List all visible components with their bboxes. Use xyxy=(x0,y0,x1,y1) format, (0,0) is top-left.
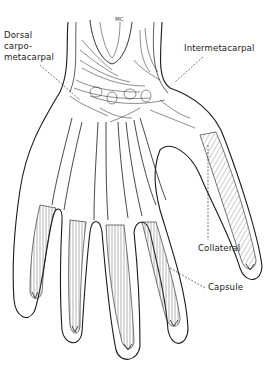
label-dorsal-carpometacarpal-line1: Dorsal xyxy=(4,30,32,40)
leader-intermetacarpal xyxy=(175,57,203,82)
fingertip-knobs xyxy=(32,264,254,350)
label-intermetacarpal: Intermetacarpal xyxy=(184,43,254,53)
leader-dorsal-carpometacarpal xyxy=(40,65,80,100)
label-capsule: Capsule xyxy=(208,282,243,292)
label-mc: MC xyxy=(115,16,124,22)
carpal-ligaments xyxy=(70,20,195,128)
leader-capsule xyxy=(170,268,205,288)
label-dorsal-carpometacarpal-line2: carpo- xyxy=(4,41,32,51)
label-collateral: Collateral xyxy=(198,243,240,253)
label-dorsal-carpometacarpal-line3: metacarpal xyxy=(4,52,54,62)
metacarpals xyxy=(52,118,166,220)
hand-inner-outline xyxy=(70,22,168,93)
hand-ligament-diagram: MC Dorsal carpo- metacarpal Intermetacar… xyxy=(0,0,271,369)
